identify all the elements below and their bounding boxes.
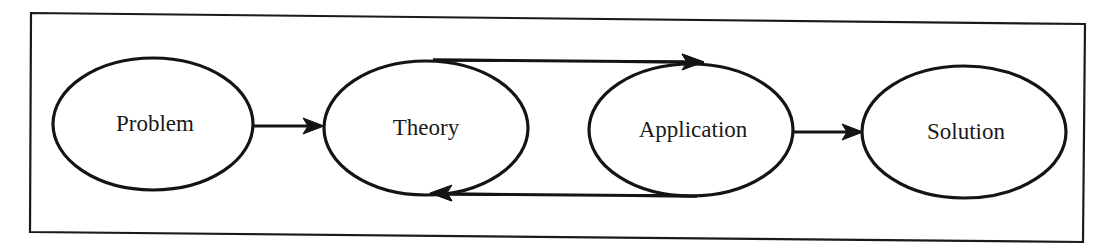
node-theory: Theory — [324, 61, 528, 195]
node-label-theory: Theory — [393, 115, 460, 140]
node-problem: Problem — [53, 58, 253, 190]
edge-overlap-bottom — [630, 196, 697, 197]
node-application: Application — [589, 64, 793, 196]
node-label-solution: Solution — [927, 119, 1005, 144]
edge-overlap-bottom — [446, 194, 500, 195]
node-label-problem: Problem — [116, 111, 194, 136]
node-label-application: Application — [639, 117, 748, 142]
flow-diagram: Problem Theory Application Solution — [0, 0, 1110, 249]
edge-overlap-top — [433, 60, 500, 61]
edge-overlap-top — [620, 62, 688, 63]
node-solution: Solution — [862, 66, 1066, 198]
